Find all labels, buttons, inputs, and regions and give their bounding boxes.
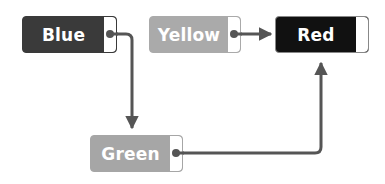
node-red-output-port[interactable] — [356, 17, 368, 52]
node-yellow-output-port[interactable] — [228, 17, 240, 52]
node-yellow[interactable]: Yellow — [149, 16, 241, 53]
node-red[interactable]: Red — [275, 16, 369, 53]
node-green-output-port[interactable] — [170, 136, 182, 171]
node-blue-label: Blue — [23, 17, 104, 52]
node-green[interactable]: Green — [90, 135, 183, 172]
node-blue[interactable]: Blue — [22, 16, 117, 53]
node-red-label: Red — [276, 17, 356, 52]
node-blue-output-port[interactable] — [104, 17, 116, 52]
node-yellow-label: Yellow — [150, 17, 228, 52]
node-green-label: Green — [91, 136, 170, 171]
edge-green-to-red[interactable] — [172, 63, 321, 157]
